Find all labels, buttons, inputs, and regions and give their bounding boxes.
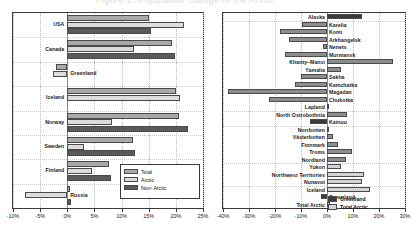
bar-region bbox=[323, 44, 327, 49]
category-label: Nordland bbox=[223, 157, 325, 163]
bar-region bbox=[327, 172, 364, 177]
category-label: Total Arctic bbox=[223, 202, 325, 208]
bar-nonarctic bbox=[67, 53, 175, 59]
bar-nonarctic bbox=[67, 126, 188, 132]
x-tick-label: 15% bbox=[135, 213, 163, 219]
legend-swatch-total bbox=[124, 169, 138, 174]
bar-region bbox=[228, 89, 327, 94]
legend-right: GreenlandTotal Arctic bbox=[328, 195, 368, 211]
category-label: Northwest Territories bbox=[223, 172, 325, 178]
category-label: Sakha bbox=[329, 74, 403, 80]
bar-region bbox=[327, 112, 347, 117]
x-tick-label: -40% bbox=[209, 213, 237, 219]
bar-arctic bbox=[67, 95, 179, 101]
legend-label: Arctic bbox=[141, 177, 154, 183]
clipped-title-text: Figure 2. Population change in the Arcti… bbox=[96, 0, 274, 5]
category-label: Iceland bbox=[223, 187, 325, 193]
bar-region bbox=[301, 74, 327, 79]
x-tick-label: -10% bbox=[287, 213, 315, 219]
bar-arctic bbox=[67, 144, 84, 150]
legend-swatch-arctic bbox=[124, 177, 138, 182]
gridline-vertical bbox=[203, 13, 204, 208]
bar-arctic bbox=[67, 22, 184, 28]
x-tickmark bbox=[203, 209, 204, 212]
bar-arctic bbox=[67, 119, 112, 125]
bar-region bbox=[327, 134, 333, 139]
bar-region bbox=[280, 29, 327, 34]
x-tickmark bbox=[13, 209, 14, 212]
category-label-canada: Canada bbox=[13, 46, 64, 52]
bar-total bbox=[67, 161, 108, 167]
category-label: North Ostrobothnia bbox=[223, 112, 325, 118]
category-label: Murmansk bbox=[329, 52, 403, 58]
category-label: Arkhangelsk bbox=[329, 37, 403, 43]
legend-label: Greenland bbox=[340, 196, 366, 202]
x-tickmark bbox=[379, 209, 380, 212]
category-label: Nunavut bbox=[223, 179, 325, 185]
bar-nonarctic bbox=[67, 175, 111, 181]
clipped-title-strip: Figure 2. Population change in the Arcti… bbox=[0, 0, 418, 9]
x-tick-label: 0% bbox=[313, 213, 341, 219]
legend-entry: Arctic bbox=[124, 176, 196, 183]
x-tick-label: 20% bbox=[162, 213, 190, 219]
x-tick-label: -20% bbox=[261, 213, 289, 219]
x-tick-label: -10% bbox=[0, 213, 27, 219]
chart-right: AlaskaKareliaKomiArkhangelskNenetsMurman… bbox=[222, 12, 406, 209]
category-label: Magadan bbox=[329, 89, 403, 95]
category-label: Västerbotten bbox=[223, 134, 325, 140]
legend-swatch-dark bbox=[328, 196, 337, 202]
gridline-horizontal bbox=[13, 135, 203, 136]
legend-left: TotalArcticNon- Arctic bbox=[120, 164, 200, 199]
x-tick-label: -30% bbox=[235, 213, 263, 219]
x-tickmark bbox=[223, 209, 224, 212]
x-tick-label: 20% bbox=[365, 213, 393, 219]
bar-total bbox=[67, 88, 176, 94]
category-label-iceland: Iceland bbox=[13, 94, 64, 100]
bar-arctic bbox=[53, 71, 67, 77]
x-tickmark bbox=[405, 209, 406, 212]
legend-label: Total bbox=[141, 169, 152, 175]
gridline-horizontal bbox=[13, 86, 203, 87]
category-label: Komi bbox=[329, 29, 403, 35]
category-label-sweden: Sweden bbox=[13, 143, 64, 149]
category-label: Troms bbox=[223, 149, 325, 155]
x-tickmark bbox=[249, 209, 250, 212]
bar-arctic bbox=[25, 192, 67, 198]
category-label: Kamchatka bbox=[329, 82, 403, 88]
x-tick-label: -5% bbox=[26, 213, 54, 219]
legend-label: Non- Arctic bbox=[141, 185, 166, 191]
bar-arctic bbox=[67, 168, 92, 174]
bar-region bbox=[285, 52, 327, 57]
x-tickmark bbox=[40, 209, 41, 212]
bar-nonarctic bbox=[67, 199, 70, 205]
category-label-greenland: Greenland bbox=[70, 70, 200, 76]
gridline-horizontal bbox=[13, 111, 203, 112]
bar-region bbox=[327, 59, 393, 64]
category-label: Kainuu bbox=[329, 119, 403, 125]
category-label-norway: Norway bbox=[13, 119, 64, 125]
category-label: Finnmark bbox=[223, 142, 325, 148]
x-tick-label: 30% bbox=[391, 213, 418, 219]
category-label: Nenets bbox=[329, 44, 403, 50]
category-label: Yamalia bbox=[223, 67, 325, 73]
x-tick-label: 10% bbox=[339, 213, 367, 219]
bar-total bbox=[67, 15, 148, 21]
x-tickmark bbox=[301, 209, 302, 212]
x-tick-label: 0% bbox=[53, 213, 81, 219]
bar-region bbox=[327, 187, 370, 192]
x-tick-label: 5% bbox=[80, 213, 108, 219]
x-tickmark bbox=[122, 209, 123, 212]
x-tickmark bbox=[176, 209, 177, 212]
x-tickmark bbox=[67, 209, 68, 212]
bar-region bbox=[327, 179, 362, 184]
category-label: Chukotka bbox=[329, 97, 403, 103]
bar-total bbox=[56, 64, 67, 70]
bar-region bbox=[327, 104, 329, 109]
category-label: Khanty–Mansi bbox=[223, 59, 325, 65]
bar-region bbox=[269, 97, 328, 102]
legend-swatch-light bbox=[328, 204, 337, 210]
legend-entry: Greenland bbox=[328, 195, 368, 203]
gridline-horizontal bbox=[13, 37, 203, 38]
x-tick-label: 10% bbox=[108, 213, 136, 219]
bar-region bbox=[327, 157, 346, 162]
